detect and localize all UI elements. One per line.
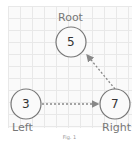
figure-caption: Fig. 1 (0, 134, 139, 140)
node-root-value: 5 (67, 36, 75, 48)
node-right-label: Right (102, 122, 131, 133)
node-right-value: 7 (111, 98, 119, 110)
node-left-value: 3 (22, 98, 30, 110)
node-root-label: Root (58, 12, 83, 23)
node-left-label: Left (12, 122, 33, 133)
edge-right-to-root (87, 55, 115, 89)
